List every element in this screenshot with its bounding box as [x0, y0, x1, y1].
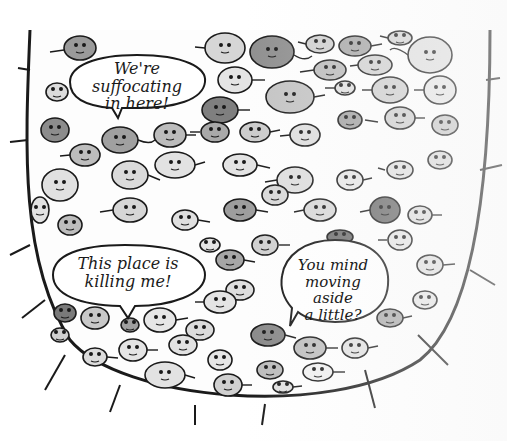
speech-line: in here! [72, 95, 202, 113]
speech-line: a little? [283, 307, 383, 324]
speech-line: killing me! [58, 273, 198, 291]
speech-line: You mind [283, 257, 383, 274]
speech-text-bottom-left: This place is killing me! [58, 255, 198, 290]
speech-text-bottom-right: You mind moving aside a little? [283, 257, 383, 323]
speech-line: This place is [58, 255, 198, 273]
speech-text-top-left: We're suffocating in here! [72, 60, 202, 113]
speech-line: moving aside [283, 274, 383, 307]
speech-line: We're suffocating [72, 60, 202, 95]
